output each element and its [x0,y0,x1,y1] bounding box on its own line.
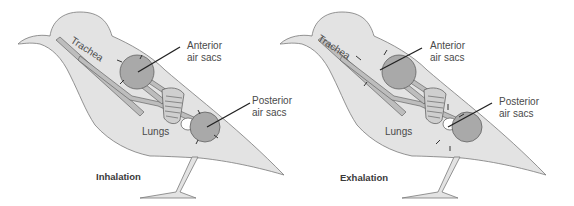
posterior-label-line2: air sacs [499,108,533,119]
posterior-label-line2: air sacs [252,107,286,118]
anterior-label-line1: Anterior [187,40,223,51]
anterior-label-line2: air sacs [430,52,464,63]
posterior-label-line1: Posterior [252,95,293,106]
lungs-label: Lungs [142,126,169,137]
lungs-label: Lungs [385,126,412,137]
anterior-label-line1: Anterior [430,40,466,51]
exhalation-diagram: Trachea Anterior air sacs Posterior air … [280,12,546,198]
exhalation-title: Exhalation [340,172,388,183]
anterior-label-line2: air sacs [187,52,221,63]
posterior-label-line1: Posterior [499,96,540,107]
inhalation-diagram: Trachea Anterior air sacs Posterior air … [18,12,293,198]
bird-respiration-diagram: Trachea Anterior air sacs Posterior air … [0,0,574,206]
inhalation-title: Inhalation [96,171,141,182]
